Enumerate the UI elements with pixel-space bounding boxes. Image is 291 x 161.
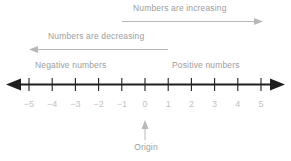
tick-label: −5 [24,99,34,109]
increasing-arrow-icon [122,18,263,25]
tick-label: −3 [70,99,80,109]
tick-label: 1 [166,99,171,109]
number-line-figure: Numbers are increasing Numbers are decre… [0,0,291,161]
number-line-graphics [0,0,291,161]
decreasing-label: Numbers are decreasing [48,31,144,41]
tick-label: 5 [258,99,263,109]
negative-numbers-label: Negative numbers [35,60,106,70]
tick-label: −1 [117,99,127,109]
origin-label: Origin [134,142,158,152]
tick-label: 2 [189,99,194,109]
increasing-label: Numbers are increasing [133,3,227,13]
tick-label: 4 [235,99,240,109]
tick-label: −4 [47,99,57,109]
tick-label: −2 [93,99,103,109]
decreasing-arrow-icon [29,46,168,53]
positive-numbers-label: Positive numbers [172,60,240,70]
origin-arrow-icon [142,120,149,140]
tick-label: 3 [212,99,217,109]
tick-label: 0 [142,99,147,109]
